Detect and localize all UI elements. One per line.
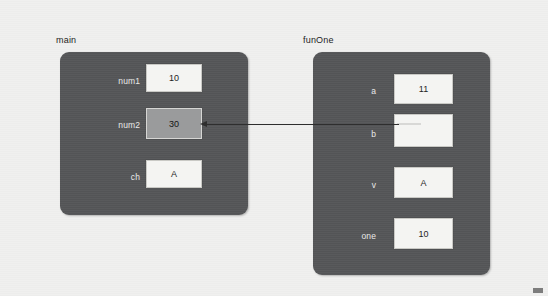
variable-label-v: v	[352, 180, 376, 190]
frame-title-funone: funOne	[303, 35, 334, 45]
variable-cell-one: 10	[394, 218, 453, 249]
variable-label-b: b	[352, 129, 376, 139]
page-corner-mark	[533, 288, 543, 293]
pointer-arrow-line	[207, 124, 399, 125]
pointer-origin-stub	[397, 123, 421, 125]
variable-cell-num1: 10	[146, 64, 202, 92]
variable-label-a: a	[352, 86, 376, 96]
variable-label-num1: num1	[99, 76, 140, 86]
variable-cell-a: 11	[394, 74, 453, 104]
variable-cell-ch: A	[146, 160, 202, 188]
variable-cell-num2: 30	[146, 108, 202, 139]
variable-label-num2: num2	[99, 120, 140, 130]
pointer-arrow-head	[200, 121, 207, 127]
variable-label-one: one	[344, 231, 376, 241]
variable-cell-b	[394, 114, 453, 147]
diagram-canvas: main num1 10 num2 30 ch A funOne a 11 b …	[0, 0, 548, 296]
variable-label-ch: ch	[99, 172, 140, 182]
frame-title-main: main	[56, 35, 76, 45]
variable-cell-v: A	[394, 167, 453, 198]
